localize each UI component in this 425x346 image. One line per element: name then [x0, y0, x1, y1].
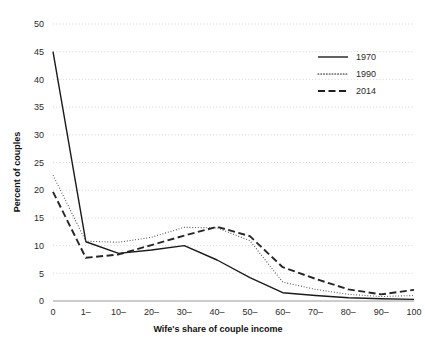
x-tick-label: 80– — [341, 307, 356, 317]
y-tick-label: 20 — [34, 185, 44, 195]
x-axis-title: Wife's share of couple income — [153, 324, 282, 334]
gridlines-group — [53, 24, 414, 301]
x-tick-label: 50– — [242, 307, 257, 317]
y-axis-tick-labels: 05101520253035404550 — [34, 19, 44, 306]
x-tick-label: 60– — [275, 307, 290, 317]
y-tick-label: 10 — [34, 241, 44, 251]
x-tick-label: 0 — [50, 307, 55, 317]
legend: 197019902014 — [318, 52, 376, 96]
x-tick-label: 70– — [308, 307, 323, 317]
x-tick-label: 1– — [81, 307, 91, 317]
y-tick-label: 45 — [34, 47, 44, 57]
x-tick-label: 90– — [374, 307, 389, 317]
y-tick-label: 35 — [34, 102, 44, 112]
line-chart: 05101520253035404550 01–10–20–30–40–50–6… — [0, 0, 425, 346]
y-tick-label: 25 — [34, 158, 44, 168]
x-axis-tick-labels: 01–10–20–30–40–50–60–70–80–90–100 — [50, 307, 421, 317]
x-tick-label: 30– — [177, 307, 192, 317]
y-tick-label: 40 — [34, 75, 44, 85]
chart-canvas: 05101520253035404550 01–10–20–30–40–50–6… — [0, 0, 425, 346]
x-tick-label: 100 — [406, 307, 421, 317]
legend-label-1990: 1990 — [356, 69, 376, 79]
legend-label-1970: 1970 — [356, 52, 376, 62]
y-tick-label: 15 — [34, 213, 44, 223]
series-line-1990 — [53, 175, 414, 296]
x-tick-label: 10– — [111, 307, 126, 317]
y-tick-label: 50 — [34, 19, 44, 29]
x-tick-label: 40– — [210, 307, 225, 317]
y-tick-label: 5 — [39, 269, 44, 279]
legend-label-2014: 2014 — [356, 86, 376, 96]
y-axis-title: Percent of couples — [12, 132, 22, 213]
x-tick-label: 20– — [144, 307, 159, 317]
y-tick-label: 30 — [34, 130, 44, 140]
series-line-2014 — [53, 192, 414, 294]
y-tick-label: 0 — [39, 296, 44, 306]
